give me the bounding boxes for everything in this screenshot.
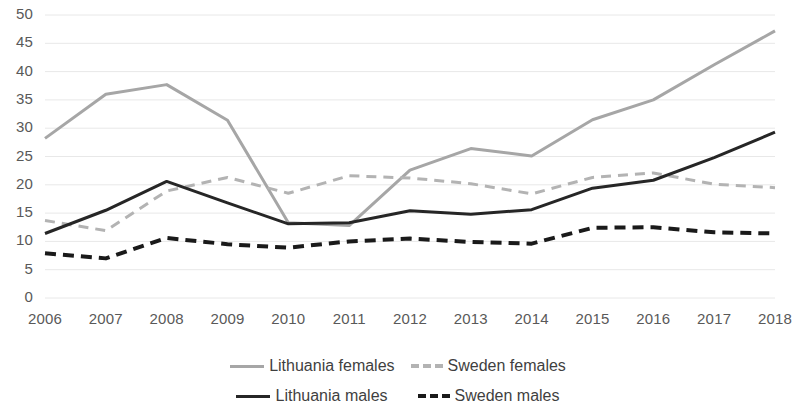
series-line-lithuania-males <box>45 132 775 233</box>
line-chart: 05101520253035404550 2006200720082009201… <box>0 0 796 413</box>
y-tick-label: 40 <box>3 62 33 79</box>
legend-swatch-lithuania-females <box>230 365 264 368</box>
legend-row-top: Lithuania females Sweden females <box>0 352 796 380</box>
legend-swatch-lithuania-males <box>236 395 270 398</box>
legend-spacer <box>388 396 404 397</box>
series-line-sweden-males <box>45 227 775 258</box>
x-tick-label: 2015 <box>565 310 621 327</box>
y-tick-label: 30 <box>3 118 33 135</box>
chart-legend: Lithuania females Sweden females Lithuan… <box>0 352 796 412</box>
y-tick-label: 25 <box>3 147 33 164</box>
legend-item-lithuania-males[interactable]: Lithuania males <box>236 387 387 405</box>
legend-item-sweden-females[interactable]: Sweden females <box>411 357 566 375</box>
y-tick-label: 0 <box>3 288 33 305</box>
legend-swatch-sweden-males <box>418 394 450 398</box>
legend-item-lithuania-females[interactable]: Lithuania females <box>230 357 394 375</box>
x-tick-label: 2013 <box>443 310 499 327</box>
legend-label-sweden-males: Sweden males <box>455 387 560 405</box>
legend-label-lithuania-males: Lithuania males <box>275 387 387 405</box>
x-tick-label: 2006 <box>17 310 73 327</box>
x-tick-label: 2014 <box>504 310 560 327</box>
x-tick-label: 2009 <box>200 310 256 327</box>
y-tick-label: 20 <box>3 175 33 192</box>
x-tick-label: 2017 <box>686 310 742 327</box>
y-tick-label: 45 <box>3 33 33 50</box>
x-tick-label: 2018 <box>747 310 796 327</box>
legend-swatch-sweden-females <box>411 364 443 368</box>
legend-label-lithuania-females: Lithuania females <box>269 357 394 375</box>
y-tick-label: 5 <box>3 260 33 277</box>
x-tick-label: 2008 <box>139 310 195 327</box>
y-tick-label: 50 <box>3 5 33 22</box>
series-line-sweden-females <box>45 173 775 231</box>
x-tick-label: 2007 <box>78 310 134 327</box>
legend-row-bottom: Lithuania males Sweden males <box>0 382 796 410</box>
legend-item-sweden-males[interactable]: Sweden males <box>418 387 560 405</box>
y-tick-label: 15 <box>3 203 33 220</box>
gridlines <box>45 15 775 298</box>
x-tick-label: 2012 <box>382 310 438 327</box>
y-tick-label: 10 <box>3 231 33 248</box>
y-tick-label: 35 <box>3 90 33 107</box>
series-lines <box>45 31 775 259</box>
x-tick-label: 2016 <box>625 310 681 327</box>
legend-label-sweden-females: Sweden females <box>448 357 566 375</box>
x-tick-label: 2011 <box>321 310 377 327</box>
legend-spacer <box>395 366 411 367</box>
x-tick-label: 2010 <box>260 310 316 327</box>
